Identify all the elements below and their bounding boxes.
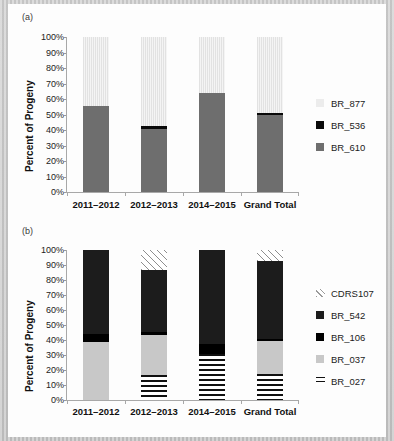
y-tick-label: 100% xyxy=(41,246,64,254)
legend-label: BR_542 xyxy=(331,310,365,321)
y-tick-label: 40% xyxy=(46,336,64,344)
y-tick-label: 80% xyxy=(46,276,64,284)
x-axis-category-label: 2011–2012 xyxy=(67,199,125,210)
y-tick-label: 70% xyxy=(46,291,64,299)
y-tick-label: 50% xyxy=(46,111,64,119)
bar-Grand-Total xyxy=(257,250,283,400)
y-tick-label: 10% xyxy=(46,381,64,389)
bar-2011-2012 xyxy=(83,250,109,400)
legend-item-BR_106[interactable]: BR_106 xyxy=(316,326,374,348)
bar-segment-BR_877 xyxy=(141,37,167,126)
panel-b-x-axis-labels: 2011–20122012–20132014–2015Grand Total xyxy=(67,406,299,417)
y-tick-label: 70% xyxy=(46,80,64,88)
legend-item-BR_037[interactable]: BR_037 xyxy=(316,348,374,370)
x-axis-category-label: Grand Total xyxy=(241,406,299,417)
y-tick-label: 20% xyxy=(46,157,64,165)
panel-b-y-axis-ticks: 100%90%80%70%60%50%40%30%20%10%0% xyxy=(24,220,64,437)
y-tick-label: 30% xyxy=(46,142,64,150)
legend-label: BR_037 xyxy=(331,354,365,365)
bar-segment-BR_037 xyxy=(257,341,283,374)
legend-item-BR_610[interactable]: BR_610 xyxy=(316,136,365,158)
bar-segment-BR_106 xyxy=(83,334,109,342)
y-tick-label: 100% xyxy=(41,33,64,41)
x-tick-mark xyxy=(241,400,242,404)
x-axis-category-label: Grand Total xyxy=(241,199,299,210)
legend-swatch-BR_027-icon xyxy=(316,377,325,385)
bar-2014-2015 xyxy=(199,37,225,192)
legend-swatch-BR_610-icon xyxy=(316,143,324,151)
bar-segment-BR_877 xyxy=(83,37,109,106)
legend-item-CDRS107[interactable]: CDRS107 xyxy=(316,282,374,304)
x-axis-category-label: 2012–2013 xyxy=(125,406,183,417)
bar-2012-2013 xyxy=(141,37,167,192)
x-tick-mark xyxy=(125,192,126,196)
panel-a-y-axis-line xyxy=(66,37,67,193)
legend-label: BR_106 xyxy=(331,332,365,343)
bar-2014-2015 xyxy=(199,250,225,400)
bar-segment-BR_037 xyxy=(141,335,167,376)
legend-swatch-BR_106-icon xyxy=(316,333,324,341)
bar-segment-BR_027 xyxy=(257,374,283,400)
panel-a-legend: BR_877BR_536BR_610 xyxy=(316,92,365,158)
bar-segment-BR_877 xyxy=(257,37,283,113)
y-tick-label: 30% xyxy=(46,351,64,359)
y-tick-label: 60% xyxy=(46,95,64,103)
bar-segment-BR_106 xyxy=(199,344,225,355)
bar-segment-BR_037 xyxy=(83,342,109,400)
legend-swatch-BR_877-icon xyxy=(316,99,324,107)
x-tick-mark xyxy=(125,400,126,404)
y-tick-label: 90% xyxy=(46,49,64,57)
panel-b-plot-area xyxy=(67,250,299,400)
bar-segment-BR_027 xyxy=(199,354,225,400)
bar-segment-BR_542 xyxy=(257,261,283,340)
y-tick-label: 50% xyxy=(46,321,64,329)
y-tick-label: 0% xyxy=(51,396,64,404)
panel-b-legend: CDRS107BR_542BR_106BR_037BR_027 xyxy=(316,282,374,392)
bar-segment-BR_610 xyxy=(83,106,109,192)
x-tick-mark xyxy=(67,400,68,404)
legend-label: BR_536 xyxy=(331,120,365,131)
x-tick-mark xyxy=(298,192,299,196)
bar-2011-2012 xyxy=(83,37,109,192)
legend-swatch-CDRS107-icon xyxy=(316,289,325,297)
y-tick-label: 90% xyxy=(46,261,64,269)
legend-label: CDRS107 xyxy=(331,288,374,299)
panel-a-y-axis-ticks: 100%90%80%70%60%50%40%30%20%10%0% xyxy=(24,4,64,220)
legend-item-BR_542[interactable]: BR_542 xyxy=(316,304,374,326)
bar-segment-BR_610 xyxy=(199,93,225,192)
x-tick-mark xyxy=(241,192,242,196)
figure-sheet: (a) Percent of Progeny 100%90%80%70%60%5… xyxy=(8,4,386,437)
legend-item-BR_536[interactable]: BR_536 xyxy=(316,114,365,136)
panel-b-y-axis-line xyxy=(66,250,67,401)
bar-segment-BR_877 xyxy=(199,37,225,93)
x-tick-mark xyxy=(67,192,68,196)
legend-item-BR_877[interactable]: BR_877 xyxy=(316,92,365,114)
y-tick-label: 0% xyxy=(51,188,64,196)
bar-segment-CDRS107 xyxy=(257,250,283,261)
x-axis-category-label: 2012–2013 xyxy=(125,199,183,210)
panel-a-x-axis-labels: 2011–20122012–20132014–2015Grand Total xyxy=(67,199,299,210)
y-tick-label: 40% xyxy=(46,126,64,134)
panel-a-plot-area xyxy=(67,37,299,192)
x-tick-mark xyxy=(183,400,184,404)
bar-segment-BR_542 xyxy=(83,250,109,334)
y-tick-label: 20% xyxy=(46,366,64,374)
bar-segment-BR_610 xyxy=(141,129,167,192)
legend-item-BR_027[interactable]: BR_027 xyxy=(316,370,374,392)
y-tick-label: 80% xyxy=(46,64,64,72)
bar-2012-2013 xyxy=(141,250,167,400)
chart-panel-a: (a) Percent of Progeny 100%90%80%70%60%5… xyxy=(8,4,386,220)
x-axis-category-label: 2014–2015 xyxy=(183,406,241,417)
bar-segment-BR_610 xyxy=(257,115,283,192)
legend-label: BR_610 xyxy=(331,142,365,153)
legend-swatch-BR_536-icon xyxy=(316,121,324,129)
legend-swatch-BR_542-icon xyxy=(316,311,324,319)
bar-segment-CDRS107 xyxy=(141,250,167,270)
x-axis-category-label: 2011–2012 xyxy=(67,406,125,417)
bar-Grand-Total xyxy=(257,37,283,192)
bar-segment-BR_027 xyxy=(141,375,167,400)
legend-label: BR_027 xyxy=(331,376,365,387)
legend-swatch-BR_037-icon xyxy=(316,355,324,363)
x-tick-mark xyxy=(183,192,184,196)
y-tick-label: 10% xyxy=(46,173,64,181)
